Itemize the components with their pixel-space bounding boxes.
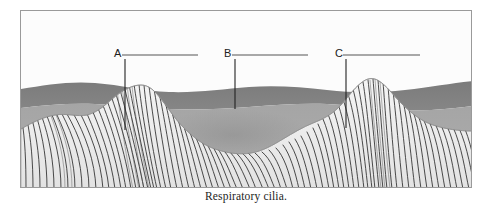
label-a-letter: A: [114, 47, 122, 59]
label-a-group: A: [114, 47, 198, 59]
label-b-letter: B: [224, 47, 231, 59]
label-c-group: C: [335, 47, 420, 59]
label-c-letter: C: [335, 47, 343, 59]
figure-caption: Respiratory cilia.: [0, 190, 492, 202]
label-overlay: A B C: [0, 0, 492, 211]
figure-root: A B C Respiratory cilia.: [0, 0, 492, 211]
label-b-group: B: [224, 47, 308, 59]
